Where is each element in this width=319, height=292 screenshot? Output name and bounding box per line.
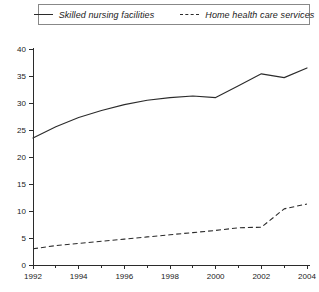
- y-axis-tick-label: 40: [17, 45, 26, 54]
- series-line-skilled-nursing-facilities: [33, 68, 307, 138]
- y-axis-tick-label: 0: [22, 261, 27, 270]
- y-axis-tick-label: 25: [17, 126, 26, 135]
- y-axis-tick-label: 10: [17, 207, 26, 216]
- x-axis: 1992199419961998200020022004: [24, 265, 316, 281]
- x-axis-tick-label: 1996: [115, 272, 133, 281]
- x-axis-tick-label: 2000: [207, 272, 225, 281]
- x-axis-tick-label: 2002: [252, 272, 270, 281]
- chart-plot-area: 0510152025303540 19921994199619982000200…: [0, 0, 319, 292]
- y-axis-tick-label: 35: [17, 72, 26, 81]
- chart-series-group: [33, 68, 307, 249]
- y-axis: 0510152025303540: [17, 45, 33, 270]
- series-line-home-health-care-services: [33, 204, 307, 249]
- y-axis-tick-label: 30: [17, 99, 26, 108]
- x-axis-tick-label: 1992: [24, 272, 42, 281]
- y-axis-tick-label: 20: [17, 153, 26, 162]
- x-axis-tick-label: 2004: [298, 272, 316, 281]
- y-axis-tick-label: 5: [22, 234, 27, 243]
- y-axis-tick-label: 15: [17, 180, 26, 189]
- x-axis-tick-label: 1998: [161, 272, 179, 281]
- x-axis-tick-label: 1994: [70, 272, 88, 281]
- chart-figure: Skilled nursing facilities Home health c…: [0, 0, 319, 292]
